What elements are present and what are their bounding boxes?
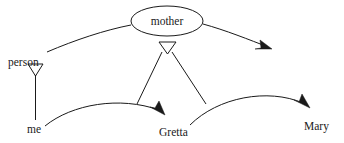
diagram-canvas: mother person me Gretta Mary (0, 0, 344, 143)
me-to-gretta-arrowhead (150, 101, 165, 115)
mother-to-right-arrow-curve (203, 24, 268, 47)
mother-instantiation-left (137, 52, 162, 104)
mary-label: Mary (304, 120, 329, 133)
mother-instantiation-right (172, 52, 206, 104)
gretta-to-mary-curve (190, 96, 303, 125)
gretta-label: Gretta (159, 126, 188, 138)
me-label: me (27, 123, 41, 135)
mother-to-mary-arrowhead (255, 40, 272, 49)
diagram-svg: mother person me Gretta Mary (0, 0, 344, 143)
gretta-to-mary-arrowhead (294, 94, 310, 108)
person-to-mother-curve (47, 25, 131, 52)
person-label: person (8, 56, 39, 69)
mother-label: mother (151, 15, 184, 27)
me-to-gretta-curve (45, 103, 159, 126)
